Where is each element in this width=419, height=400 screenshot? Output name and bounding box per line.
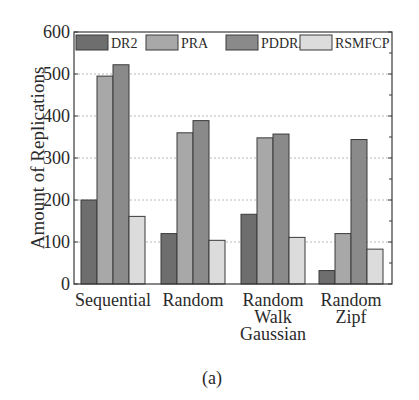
bar-dr2 (81, 200, 97, 284)
y-tick-label: 600 (43, 22, 70, 42)
bar-dr2 (161, 234, 177, 284)
bar-rsmfcp (129, 216, 145, 284)
legend-swatch-pra (146, 35, 178, 50)
bars (81, 65, 383, 284)
bar-dr2 (319, 271, 335, 284)
bar-chart: 0100200300400500600 SequentialRandomRand… (0, 0, 419, 400)
bar-pddra (273, 134, 289, 284)
y-tick-label: 0 (61, 274, 70, 294)
bar-pddra (113, 65, 129, 284)
x-category-label: Gaussian (240, 324, 306, 344)
bar-dr2 (241, 214, 257, 284)
bar-rsmfcp (367, 249, 383, 284)
x-axis-categories: SequentialRandomRandomWalkGaussianRandom… (75, 290, 381, 344)
bar-pddra (351, 140, 367, 284)
legend-label: DR2 (111, 36, 137, 51)
bar-rsmfcp (209, 240, 225, 284)
bar-pra (335, 234, 351, 284)
bar-pra (257, 138, 273, 284)
figure-caption: (a) (202, 368, 222, 389)
legend-swatch-rsmfcp (300, 35, 332, 50)
bar-rsmfcp (289, 237, 305, 284)
bar-pra (177, 133, 193, 284)
bar-pra (97, 76, 113, 284)
legend-swatch-pddra (226, 35, 258, 50)
x-category-label: Sequential (75, 290, 151, 310)
bar-pddra (193, 121, 209, 284)
legend-swatch-dr2 (76, 35, 108, 50)
x-category-label: Random (163, 290, 224, 310)
legend: DR2PRAPDDRARSMFCP (74, 33, 392, 52)
legend-label: RSMFCP (335, 36, 390, 51)
x-category-label: Zipf (336, 307, 367, 327)
legend-label: PRA (181, 36, 209, 51)
y-axis-label: Amount of Replications (27, 67, 48, 250)
